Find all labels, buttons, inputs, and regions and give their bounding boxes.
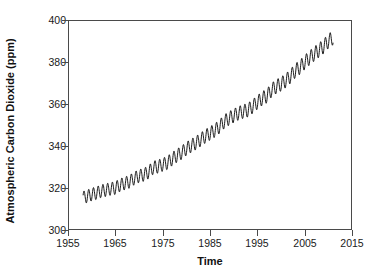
x-tick-mark-1965 [115, 230, 116, 236]
x-tick-mark-1995 [257, 230, 258, 236]
x-tick-mark-2005 [305, 230, 306, 236]
x-tick-label-1985: 1985 [187, 238, 233, 249]
y-tick-label-400: 400 [26, 15, 66, 26]
x-tick-mark-1955 [68, 230, 69, 236]
x-tick-label-2015: 2015 [329, 238, 375, 249]
co2-series-svg [68, 20, 352, 230]
co2-chart-figure: 400 380 360 340 320 300 1955 1965 1975 1… [0, 0, 376, 277]
x-tick-mark-2015 [352, 230, 353, 236]
y-tick-label-320: 320 [26, 183, 66, 194]
x-axis-title: Time [68, 255, 352, 267]
y-axis-title: Atmospheric Carbon Dioxide (ppm) [4, 31, 16, 231]
y-tick-label-360: 360 [26, 99, 66, 110]
x-tick-label-1975: 1975 [140, 238, 186, 249]
y-tick-label-340: 340 [26, 141, 66, 152]
co2-line-path [83, 33, 333, 203]
x-tick-mark-1975 [163, 230, 164, 236]
x-tick-label-1965: 1965 [92, 238, 138, 249]
plot-area [68, 20, 352, 230]
x-tick-label-2005: 2005 [282, 238, 328, 249]
x-tick-mark-1985 [210, 230, 211, 236]
y-tick-label-380: 380 [26, 57, 66, 68]
x-tick-label-1995: 1995 [234, 238, 280, 249]
y-tick-label-300: 300 [26, 225, 66, 236]
x-tick-label-1955: 1955 [45, 238, 91, 249]
